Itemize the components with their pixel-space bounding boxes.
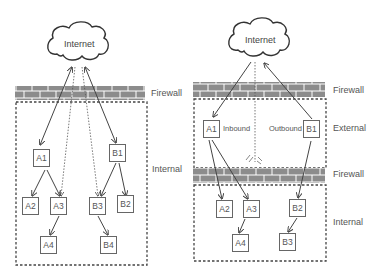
- right-firewall-mid: [193, 168, 325, 183]
- right-node-a3: A3: [243, 200, 260, 218]
- left-node-b2: B2: [117, 195, 134, 213]
- right-internet-label: Internet: [245, 36, 276, 45]
- left-node-a3: A3: [50, 197, 67, 215]
- right-firewall-top: [193, 82, 325, 97]
- right-firewall-mid-label: Firewall: [333, 170, 364, 179]
- right-node-b2: B2: [289, 199, 306, 217]
- left-node-b3: B3: [89, 197, 106, 215]
- left-internal-label: Internal: [152, 165, 182, 174]
- right-node-a2: A2: [216, 200, 233, 218]
- left-internal-zone: [16, 102, 147, 265]
- left-internet-label: Internet: [64, 40, 95, 49]
- right-node-a1: A1: [203, 120, 220, 138]
- network-diagram: Internet Internet Firewall Internal A1 B…: [0, 0, 374, 280]
- right-node-b3: B3: [279, 233, 296, 251]
- left-node-b4: B4: [100, 236, 117, 254]
- left-firewall: [15, 86, 145, 100]
- inbound-label: Inbound: [223, 125, 250, 133]
- blocked-icon: [246, 155, 262, 164]
- right-internal-zone: [194, 185, 326, 261]
- left-node-b1: B1: [109, 144, 126, 162]
- right-firewall-top-label: Firewall: [333, 86, 364, 95]
- left-node-a1: A1: [33, 149, 50, 167]
- right-node-b1: B1: [303, 120, 320, 138]
- outbound-label: Outbound: [269, 125, 302, 133]
- right-external-label: External: [333, 124, 366, 133]
- right-node-a4: A4: [232, 234, 249, 252]
- left-node-a2: A2: [22, 197, 39, 215]
- left-node-a4: A4: [40, 236, 57, 254]
- right-internal-label: Internal: [333, 218, 363, 227]
- left-firewall-label: Firewall: [151, 89, 182, 98]
